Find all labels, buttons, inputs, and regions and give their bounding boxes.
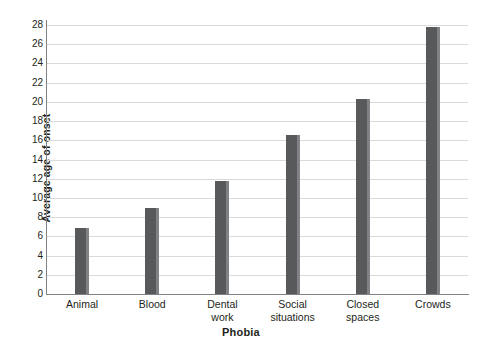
y-axis-tick-label: 6 xyxy=(21,231,43,241)
bar xyxy=(426,27,440,294)
y-axis-tick-label: 28 xyxy=(21,20,43,30)
gridline xyxy=(47,236,468,237)
y-axis-tick-labels: 0246810121416182022242628 xyxy=(18,0,43,348)
x-axis-tick-label: Crowds xyxy=(378,298,482,311)
y-axis-tick-label: 4 xyxy=(21,251,43,261)
x-axis-tick-label-line: spaces xyxy=(308,311,418,324)
gridline xyxy=(47,102,468,103)
bar xyxy=(215,181,229,294)
y-axis-tick-label: 24 xyxy=(21,58,43,68)
bar-highlight-edge xyxy=(367,99,370,294)
y-axis-tick-label: 14 xyxy=(21,155,43,165)
y-axis-tick-label: 8 xyxy=(21,212,43,222)
x-axis-title: Phobia xyxy=(0,326,482,338)
y-axis-tick-label: 16 xyxy=(21,135,43,145)
gridline xyxy=(47,275,468,276)
gridline xyxy=(47,44,468,45)
bar xyxy=(75,228,89,294)
bar-highlight-edge xyxy=(156,208,159,294)
bar-highlight-edge xyxy=(86,228,89,294)
gridline xyxy=(47,25,468,26)
gridline xyxy=(47,140,468,141)
gridline xyxy=(47,256,468,257)
gridline xyxy=(47,121,468,122)
bar-chart: Average age of onset 0246810121416182022… xyxy=(0,0,482,348)
bar xyxy=(286,135,300,294)
y-axis-tick-label: 12 xyxy=(21,174,43,184)
y-axis-tick-label: 18 xyxy=(21,116,43,126)
gridline xyxy=(47,63,468,64)
y-axis-tick-label: 2 xyxy=(21,270,43,280)
y-axis-tick-label: 26 xyxy=(21,39,43,49)
bar-highlight-edge xyxy=(437,27,440,294)
bar-highlight-edge xyxy=(297,135,300,294)
bar-highlight-edge xyxy=(226,181,229,294)
bar xyxy=(356,99,370,294)
y-axis-line xyxy=(46,20,47,295)
y-axis-tick-label: 10 xyxy=(21,193,43,203)
gridline xyxy=(47,83,468,84)
y-axis-tick-label: 20 xyxy=(21,97,43,107)
y-axis-tick-label: 22 xyxy=(21,78,43,88)
bar xyxy=(145,208,159,294)
plot-area xyxy=(47,25,468,294)
gridline xyxy=(47,179,468,180)
gridline xyxy=(47,217,468,218)
gridline xyxy=(47,198,468,199)
gridline xyxy=(47,160,468,161)
x-axis-tick-label-line: Crowds xyxy=(378,298,482,311)
x-axis-line xyxy=(46,294,469,295)
